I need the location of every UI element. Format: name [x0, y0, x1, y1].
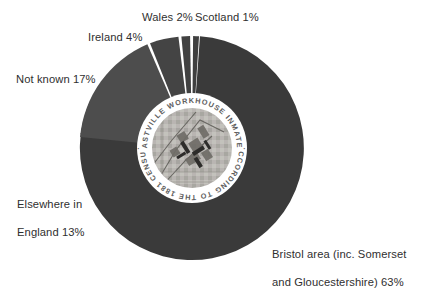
medallion-separator-right-icon: ·	[243, 144, 246, 153]
medallion-separator-left-icon: ·	[137, 144, 140, 153]
pie-label-elsewhere-line1: Elsewhere in	[17, 197, 85, 211]
pie-label-elsewhere-in-england: Elsewhere in England 13%	[17, 183, 85, 253]
pie-label-elsewhere-line2: England 13%	[17, 225, 85, 239]
pie-label-scotland: Scotland 1%	[195, 10, 259, 24]
pie-label-not-known: Not known 17%	[16, 72, 96, 86]
pie-label-bristol-line1: Bristol area (inc. Somerset	[272, 247, 407, 261]
pie-label-bristol-area: Bristol area (inc. Somerset and Gloucest…	[272, 233, 407, 292]
pie-label-ireland: Ireland 4%	[88, 30, 143, 44]
pie-label-bristol-line2: and Gloucestershire) 63%	[272, 275, 407, 289]
pie-label-wales: Wales 2%	[142, 10, 193, 24]
